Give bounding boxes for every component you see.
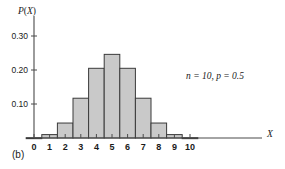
x-tick-label: 5 bbox=[109, 142, 114, 152]
histogram-bar bbox=[120, 68, 136, 138]
x-tick-label: 0 bbox=[31, 142, 36, 152]
x-tick-label: 8 bbox=[156, 142, 161, 152]
y-axis-title: P(X) bbox=[17, 6, 36, 17]
y-tick-group: 0.100.200.30 bbox=[11, 31, 37, 109]
y-tick-label: 0.10 bbox=[11, 99, 28, 109]
x-tick-label: 3 bbox=[78, 142, 83, 152]
histogram-bar bbox=[89, 68, 105, 138]
y-tick-label: 0.30 bbox=[11, 31, 28, 41]
x-tick-label: 6 bbox=[125, 142, 130, 152]
panel-label: (b) bbox=[12, 149, 24, 160]
x-tick-label: 2 bbox=[63, 142, 68, 152]
histogram-bar bbox=[73, 98, 89, 138]
y-tick-label: 0.20 bbox=[11, 65, 28, 75]
x-axis-title: X bbox=[266, 129, 274, 139]
x-tick-label: 9 bbox=[172, 142, 177, 152]
histogram-bar bbox=[135, 98, 151, 138]
histogram-bar bbox=[104, 54, 120, 138]
x-tick-label: 7 bbox=[141, 142, 146, 152]
parameter-annotation: n = 10, p = 0.5 bbox=[186, 71, 244, 81]
x-tick-label: 10 bbox=[185, 142, 195, 152]
bars-group bbox=[26, 54, 198, 138]
x-tick-label: 1 bbox=[47, 142, 52, 152]
binomial-distribution-figure: 0.100.200.30 012345678910 P(X) X n = 10,… bbox=[0, 0, 285, 169]
histogram-plot: 0.100.200.30 012345678910 P(X) X n = 10,… bbox=[0, 0, 285, 169]
x-tick-label: 4 bbox=[94, 142, 99, 152]
